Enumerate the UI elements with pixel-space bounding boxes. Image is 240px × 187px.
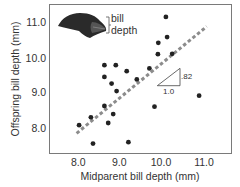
x-tick-label: 11.0 — [194, 156, 214, 168]
data-point — [106, 121, 111, 126]
y-axis-title: Offspring bill depth (mm) — [9, 22, 21, 137]
data-point — [170, 51, 175, 56]
x-tick-label: 8.0 — [71, 156, 86, 168]
finch-head-icon — [58, 13, 106, 38]
data-point — [102, 104, 107, 109]
data-point — [89, 115, 94, 120]
y-tick-label: 10.0 — [26, 52, 47, 64]
slope-run-label: 1.0 — [163, 87, 175, 96]
data-point — [102, 75, 107, 80]
x-axis-title: Midparent bill depth (mm) — [80, 170, 199, 182]
slope-rise-label: .82 — [181, 72, 193, 81]
data-point — [113, 63, 118, 68]
x-tick-label: 9.0 — [112, 156, 127, 168]
data-point — [156, 40, 161, 45]
data-point — [165, 35, 170, 40]
data-point — [197, 93, 202, 98]
data-point — [109, 81, 114, 86]
data-point — [102, 63, 107, 68]
data-point — [156, 52, 161, 57]
data-point — [114, 89, 119, 94]
data-point — [147, 66, 152, 71]
data-point — [111, 112, 116, 117]
data-point — [124, 69, 129, 74]
y-tick-label: 11.0 — [26, 16, 46, 28]
data-point — [164, 15, 169, 20]
data-point — [91, 141, 96, 146]
slope-triangle — [157, 68, 180, 85]
data-point — [126, 140, 131, 145]
data-point — [77, 123, 82, 128]
y-tick-label: 8.0 — [31, 122, 46, 134]
x-tick-label: 10.0 — [151, 156, 172, 168]
depth-label: depth — [111, 24, 137, 36]
scatter-chart: bill depth .82 1.0 11.0 10.0 9.0 8.0 8.0… — [0, 0, 240, 187]
y-tick-label: 9.0 — [31, 86, 46, 98]
bill-label: bill — [111, 12, 124, 24]
data-point — [134, 77, 139, 82]
data-point — [152, 104, 157, 109]
